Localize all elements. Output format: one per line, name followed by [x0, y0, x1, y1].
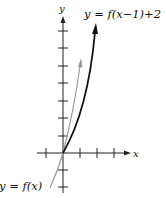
- x-axis-arrow-icon: [124, 151, 131, 156]
- x-axis-label: x: [133, 148, 139, 159]
- curve-original-label: y = f(x): [0, 179, 42, 193]
- y-axis-label: y: [58, 3, 65, 14]
- y-axis-arrow-icon: [61, 16, 66, 23]
- y-axis: [58, 16, 68, 193]
- curve-original-arrow-icon: [78, 58, 83, 68]
- graph-figure: x y y = f(x−1)+2 y = f(x): [0, 0, 166, 198]
- curve-shifted-arrow-icon: [92, 23, 98, 34]
- curve-shifted-label: y = f(x−1)+2: [83, 7, 161, 21]
- x-axis: [37, 148, 131, 158]
